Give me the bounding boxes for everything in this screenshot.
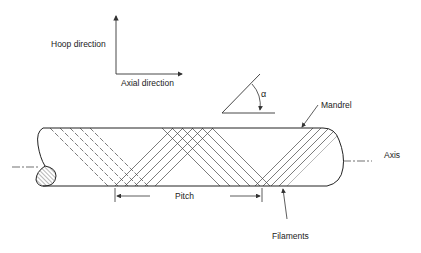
alpha-angle-label: α [261, 89, 266, 99]
angle-arc-icon [252, 84, 260, 110]
winding-angle-indicator [222, 74, 275, 113]
filaments-label: Filaments [272, 231, 309, 241]
mandrel-label: Mandrel [321, 100, 352, 110]
direction-axes [116, 16, 182, 74]
hoop-direction-label: Hoop direction [51, 39, 106, 49]
mandrel [36, 128, 344, 186]
filament-bands [50, 128, 345, 186]
filaments-leader-arrow [283, 189, 287, 219]
pitch-label: Pitch [175, 191, 194, 201]
filament-winding-diagram [0, 0, 421, 253]
axis-label: Axis [384, 150, 400, 160]
axial-direction-label: Axial direction [121, 78, 174, 88]
mandrel-leader-arrow [302, 105, 318, 127]
